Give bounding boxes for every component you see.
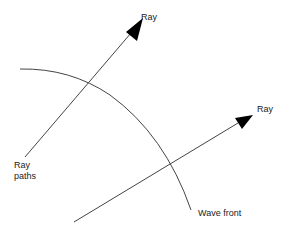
ray-path-1 — [25, 33, 131, 157]
ray-2-arrowhead — [235, 115, 253, 129]
wave-front-label: Wave front — [198, 208, 241, 219]
ray-label-right: Ray — [257, 104, 273, 115]
wave-diagram — [0, 0, 285, 234]
wave-front-arc — [20, 69, 191, 210]
ray-paths-label-line2: paths — [14, 171, 36, 182]
ray-paths-label-line1: Ray — [14, 160, 30, 171]
ray-label-top: Ray — [141, 12, 157, 23]
